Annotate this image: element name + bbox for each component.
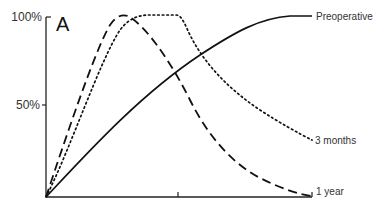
series-label-preoperative: Preoperative — [316, 11, 373, 22]
series-label-1-year: 1 year — [316, 186, 344, 197]
series-1-year-line — [46, 15, 312, 197]
series-3-months-line — [46, 15, 312, 197]
panel-label: A — [56, 13, 70, 35]
series-label-3-months: 3 months — [315, 135, 356, 146]
y-tick-label-50: 50% — [16, 98, 40, 112]
chart: 100% 50% A Preoperative 3 months 1 year — [0, 0, 380, 206]
series-preoperative-line — [46, 16, 312, 197]
y-tick-label-100: 100% — [11, 10, 42, 24]
